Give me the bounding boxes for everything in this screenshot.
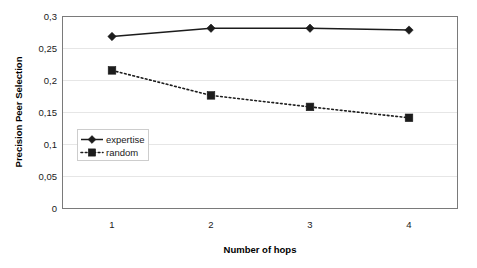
legend-item-random: random (81, 147, 138, 158)
y-tick-label-0.15: 0,15 (39, 107, 58, 118)
legend-label-expertise: expertise (106, 134, 145, 145)
x-tick-label-3: 3 (307, 219, 312, 230)
legend-marker-square-icon (88, 149, 95, 156)
x-tick-label-4: 4 (406, 219, 411, 230)
legend-label-random: random (106, 147, 138, 158)
chart-container: 0,3 0,25 0,2 0,15 0,1 0,05 0 1 2 3 4 Pre… (0, 0, 477, 268)
x-axis-tick-labels: 1 2 3 4 (109, 219, 411, 230)
y-tick-label-0.2: 0,2 (44, 75, 57, 86)
y-tick-label-0.3: 0,3 (44, 11, 57, 22)
random-point-2 (207, 92, 215, 100)
random-point-4 (405, 114, 413, 122)
y-tick-label-0.1: 0,1 (44, 139, 57, 150)
x-axis-title: Number of hops (224, 244, 297, 255)
y-tick-label-0.05: 0,05 (39, 171, 58, 182)
y-tick-label-0.25: 0,25 (39, 43, 58, 54)
y-axis-title: Precision Peer Selection (13, 56, 24, 167)
precision-peer-selection-line-chart: 0,3 0,25 0,2 0,15 0,1 0,05 0 1 2 3 4 Pre… (0, 0, 477, 268)
chart-legend: expertise random (78, 130, 149, 161)
random-point-3 (306, 103, 314, 111)
y-axis-tick-labels: 0,3 0,25 0,2 0,15 0,1 0,05 0 (39, 11, 58, 214)
x-tick-label-2: 2 (208, 219, 213, 230)
random-point-1 (108, 67, 116, 75)
y-tick-label-0: 0 (52, 203, 57, 214)
x-tick-label-1: 1 (109, 219, 114, 230)
